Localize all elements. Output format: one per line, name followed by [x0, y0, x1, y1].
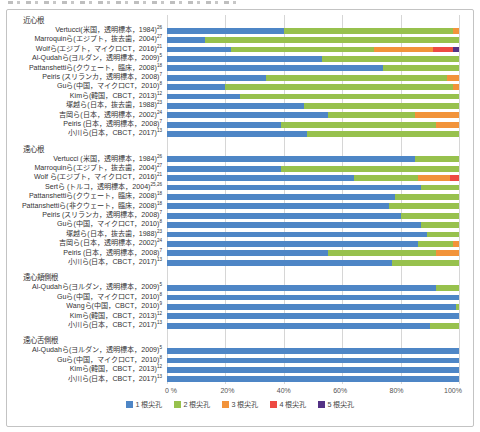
- legend-swatch-icon: [174, 401, 181, 408]
- bar-segment-1根尖孔: [167, 232, 427, 238]
- stacked-bar: [167, 185, 459, 191]
- row-label: Wolfら(エジプト，マイクロCT，2016)21: [11, 45, 167, 54]
- bar-segment-1根尖孔: [167, 103, 304, 109]
- reference-superscript: 27: [157, 163, 162, 168]
- bar-segment-1根尖孔: [167, 112, 328, 118]
- legend-label: 1 根尖孔: [136, 399, 163, 409]
- bar-segment-1根尖孔: [167, 260, 392, 266]
- bar-row: 小川ら(日本，CBCT，2017)13: [11, 258, 459, 267]
- bar-row: Guら(中国，マイクロCT，2010)8: [11, 356, 459, 365]
- bar-segment-2根尖孔: [231, 47, 374, 53]
- reference-superscript: 8: [159, 354, 162, 359]
- bar-segment-1根尖孔: [167, 166, 281, 172]
- row-label: 小川ら(日本，CBCT，2017)13: [11, 375, 167, 384]
- legend-item: 1 根尖孔: [126, 399, 163, 409]
- stacked-bar: [167, 304, 459, 310]
- row-label: Peiris (日本，透明標本，2008)7: [11, 120, 167, 129]
- bar-segment-2根尖孔: [389, 203, 459, 209]
- bar-row: Vertucci (米国，透明標本，1984)26: [11, 155, 459, 164]
- bar-row: Peiris (日本，透明標本，2008)7: [11, 120, 459, 129]
- bar-segment-2根尖孔: [307, 131, 459, 137]
- stacked-bar: [167, 323, 459, 329]
- bar-segment-2根尖孔: [383, 65, 459, 71]
- legend: 1 根尖孔2 根尖孔3 根尖孔4 根尖孔5 根尖孔: [7, 399, 473, 409]
- bar-segment-3根尖孔: [436, 122, 459, 128]
- reference-superscript: 26: [157, 153, 162, 158]
- stacked-bar: [167, 232, 459, 238]
- bar-segment-1根尖孔: [167, 94, 240, 100]
- row-label: Wangら(中国，CBCT，2010)9: [11, 302, 167, 311]
- bar-segment-2根尖孔: [395, 194, 459, 200]
- bar-segment-1根尖孔: [167, 313, 459, 319]
- bar-row: Kimら(韓国，CBCT，2013)12: [11, 92, 459, 101]
- row-label: 吉岡ら(日本，透明標本，2002)24: [11, 111, 167, 120]
- row-label: Kimら(韓国，CBCT，2013)12: [11, 92, 167, 101]
- reference-superscript: 21: [157, 172, 162, 177]
- legend-swatch-icon: [222, 401, 229, 408]
- bar-segment-2根尖孔: [304, 103, 459, 109]
- stacked-bar: [167, 56, 459, 62]
- stacked-bar: [167, 358, 459, 364]
- legend-label: 4 根尖孔: [280, 399, 307, 409]
- legend-item: 2 根尖孔: [174, 399, 211, 409]
- bar-segment-5根尖孔: [453, 47, 459, 53]
- bar-segment-2根尖孔: [401, 213, 459, 219]
- bar-row: 小川ら(日本，CBCT，2017)13: [11, 321, 459, 330]
- bar-segment-4根尖孔: [433, 47, 453, 53]
- row-label: 吉岡ら(日本，透明標本，2002)24: [11, 239, 167, 248]
- stacked-bar: [167, 260, 459, 266]
- stacked-bar: [167, 103, 459, 109]
- stacked-bar: [167, 94, 459, 100]
- bar-segment-1根尖孔: [167, 37, 205, 43]
- row-label: 小川ら(日本，CBCT，2017)13: [11, 321, 167, 330]
- row-label: Al-Qudahら(ヨルダン，透明標本，2009)5: [11, 346, 167, 355]
- bar-segment-1根尖孔: [167, 358, 459, 364]
- reference-superscript: 7: [159, 247, 162, 252]
- reference-superscript: 18: [157, 200, 162, 205]
- stacked-bar: [167, 250, 459, 256]
- bar-row: Al-Qudahら(ヨルダン，透明標本，2009)5: [11, 283, 459, 292]
- bar-segment-4根尖孔: [450, 175, 459, 181]
- stacked-bar: [167, 376, 459, 382]
- stacked-bar: [167, 175, 459, 181]
- bar-segment-1根尖孔: [167, 241, 418, 247]
- bar-segment-1根尖孔: [167, 75, 266, 81]
- bar-segment-3根尖孔: [453, 28, 459, 34]
- stacked-bar: [167, 194, 459, 200]
- bar-segment-1根尖孔: [167, 250, 328, 256]
- reference-superscript: 18: [157, 191, 162, 196]
- bar-segment-2根尖孔: [225, 84, 453, 90]
- bar-row: Kimら(韓国，CBCT，2013)12: [11, 312, 459, 321]
- bar-segment-1根尖孔: [167, 222, 421, 228]
- reference-superscript: 7: [159, 72, 162, 77]
- bar-row: Wangら(中国，CBCT，2010)9: [11, 302, 459, 311]
- bar-segment-1根尖孔: [167, 376, 459, 382]
- row-label: Pattanshettiら(クウェート，臨床，2008)18: [11, 64, 167, 73]
- reference-superscript: 12: [157, 364, 162, 369]
- row-label: Peiris (スリランカ，透明標本，2008)7: [11, 73, 167, 82]
- reference-superscript: 23: [157, 228, 162, 233]
- bar-segment-2根尖孔: [415, 156, 459, 162]
- row-label: Guら(中国，マイクロCT，2010)8: [11, 293, 167, 302]
- bar-segment-3根尖孔: [453, 241, 459, 247]
- bar-segment-2根尖孔: [427, 232, 459, 238]
- legend-swatch-icon: [126, 401, 133, 408]
- stacked-bar: [167, 348, 459, 354]
- bar-segment-2根尖孔: [328, 112, 416, 118]
- bar-segment-3根尖孔: [447, 75, 459, 81]
- bar-segment-1根尖孔: [167, 203, 389, 209]
- stacked-bar: [167, 37, 459, 43]
- bar-row: 小川ら(日本，CBCT，2017)13: [11, 375, 459, 384]
- bar-segment-1根尖孔: [167, 56, 322, 62]
- bar-row: Kimら(韓国，CBCT，2013)12: [11, 365, 459, 374]
- reference-superscript: 24: [157, 238, 162, 243]
- stacked-bar: [167, 313, 459, 319]
- x-axis-tick: 100%: [444, 387, 462, 394]
- bar-row: Al-Qudahら(ヨルダン，透明標本，2009)5: [11, 346, 459, 355]
- stacked-bar: [167, 75, 459, 81]
- reference-superscript: 24: [157, 109, 162, 114]
- x-axis-tick: 20%: [220, 387, 234, 394]
- row-label: Vertucci (米国，透明標本，1984)26: [11, 155, 167, 164]
- bar-segment-2根尖孔: [456, 304, 459, 310]
- bar-row: Pattanshettiら(非クウェート，臨床，2008)18: [11, 202, 459, 211]
